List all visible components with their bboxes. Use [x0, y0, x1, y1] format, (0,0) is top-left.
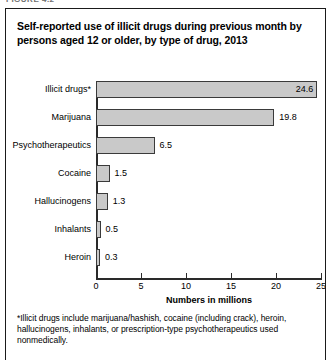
bar-category-label: Heroin [6, 252, 91, 262]
bar-value-label: 1.5 [115, 168, 128, 178]
bar-value-label: 0.5 [106, 224, 119, 234]
x-axis-tick [231, 273, 232, 279]
x-axis-tick-label: 10 [174, 281, 198, 291]
bar [96, 193, 108, 210]
bar [96, 137, 155, 154]
bar-row: Inhalants0.5 [6, 221, 326, 249]
x-axis-tick [186, 273, 187, 279]
bar [96, 165, 110, 182]
bar-value-label: 1.3 [113, 196, 126, 206]
bar-value-label: 24.6 [289, 84, 313, 94]
x-axis-tick [96, 273, 97, 279]
x-axis-tick-label: 25 [309, 281, 326, 291]
x-axis-tick [141, 273, 142, 279]
bar-category-label: Psychotherapeutics [6, 140, 91, 150]
x-axis-tick [321, 273, 322, 279]
x-axis-tick [276, 273, 277, 279]
footnote-text: Illicit drugs include marijuana/hashish,… [17, 313, 286, 345]
x-axis-tick-label: 15 [219, 281, 243, 291]
bar-category-label: Cocaine [6, 168, 91, 178]
bar-category-label: Illicit drugs* [6, 84, 91, 94]
figure-box: Self-reported use of illicit drugs durin… [5, 8, 326, 360]
bar-row: Hallucinogens1.3 [6, 193, 326, 221]
bar-row: Marijuana19.8 [6, 109, 326, 137]
x-axis-tick-label: 5 [129, 281, 153, 291]
bar-category-label: Marijuana [6, 112, 91, 122]
figure-title: Self-reported use of illicit drugs durin… [17, 20, 311, 47]
bar-category-label: Inhalants [6, 224, 91, 234]
x-axis-line [96, 278, 322, 280]
x-axis-tick-label: 20 [264, 281, 288, 291]
bar-chart: Illicit drugs*24.6Marijuana19.8Psychothe… [6, 67, 326, 299]
bar-row: Cocaine1.5 [6, 165, 326, 193]
bar-value-label: 19.8 [279, 112, 297, 122]
bar [96, 249, 100, 266]
bar [96, 81, 317, 98]
bar [96, 109, 274, 126]
bar [96, 221, 101, 238]
bar-row: Illicit drugs*24.6 [6, 81, 326, 109]
bar-value-label: 6.5 [160, 140, 173, 150]
x-axis-title: Numbers in millions [96, 295, 322, 305]
bar-category-label: Hallucinogens [6, 196, 91, 206]
bar-row: Psychotherapeutics6.5 [6, 137, 326, 165]
bar-value-label: 0.3 [105, 252, 118, 262]
figure-footnote: *Illicit drugs include marijuana/hashish… [17, 313, 313, 346]
x-axis-tick-label: 0 [84, 281, 108, 291]
bar-row: Heroin0.3 [6, 249, 326, 277]
figure-caption: FIGURE 4.2 [6, 0, 55, 3]
